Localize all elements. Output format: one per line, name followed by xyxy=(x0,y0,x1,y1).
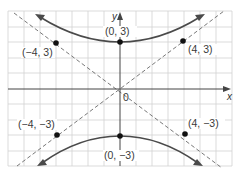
label-4-neg3: (4, −3) xyxy=(188,117,219,129)
x-axis-label: x xyxy=(226,91,233,102)
label-0-3: (0, 3) xyxy=(105,25,130,37)
y-axis-label: y xyxy=(111,11,118,22)
origin-label: 0 xyxy=(123,91,129,103)
label-4-3: (4, 3) xyxy=(188,43,213,55)
label-neg4-3: (−4, 3) xyxy=(22,46,53,58)
point-neg4-3 xyxy=(53,40,59,46)
point-4-3 xyxy=(180,38,186,44)
label-neg4-neg3: (−4, −3) xyxy=(18,118,55,130)
y-axis-arrow-icon xyxy=(117,12,123,20)
point-0-3 xyxy=(117,39,123,45)
point-neg4-neg3 xyxy=(54,132,60,138)
label-0-neg3: (0, −3) xyxy=(104,149,135,161)
point-0-neg3 xyxy=(117,133,123,139)
hyperbola-chart: (0, 3) (0, −3) (−4, 3) (4, 3) (−4, −3) (… xyxy=(0,0,246,178)
point-4-neg3 xyxy=(182,131,188,137)
